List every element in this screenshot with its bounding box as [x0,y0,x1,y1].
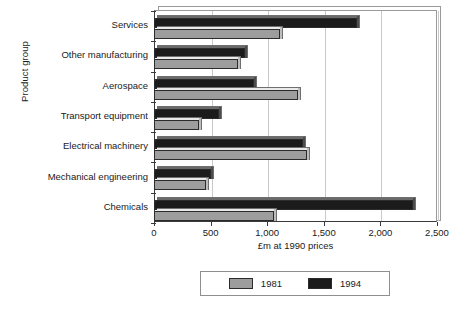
bar-side-face [245,45,248,58]
legend-label-1994: 1994 [340,278,361,289]
bar-1981-aerospace [154,90,298,100]
bar-front-face [154,150,307,160]
bar-side-face [206,177,209,190]
bar-side-face [298,87,301,100]
x-axis-tick-label: 0 [151,227,156,238]
legend-swatch-1994 [308,278,332,289]
bar-side-face [357,15,360,28]
y-axis-tick-label: Electrical machinery [24,140,148,151]
legend-item-1994: 1994 [308,278,361,289]
bar-1981-services [154,29,280,39]
y-axis-tick-label: Chemicals [24,201,148,212]
x-axis-tick-label: 2,000 [369,227,393,238]
legend-swatch-1981 [229,278,253,289]
x-axis-tick [267,222,268,226]
x-axis-tick [211,222,212,226]
bar-side-face [307,147,310,160]
legend-item-1981: 1981 [229,278,282,289]
bars-layer [154,10,437,222]
bar-1981-chemicals [154,211,274,221]
bar-chart: Product group ServicesOther manufacturin… [0,0,470,316]
bar-1981-electrical-machinery [154,150,307,160]
bar-front-face [154,180,206,190]
bar-side-face [413,197,416,210]
bar-front-face [154,120,199,130]
legend-label-1981: 1981 [261,278,282,289]
bar-front-face [154,211,274,221]
x-axis-tick-label: 1,000 [255,227,279,238]
y-axis-tick-label: Services [24,19,148,30]
x-axis-tick-label: 2,500 [425,227,449,238]
bar-front-face [154,29,280,39]
bar-front-face [154,59,238,69]
x-axis-tick-label: 1,500 [312,227,336,238]
bar-side-face [280,26,283,39]
y-axis-tick-labels: ServicesOther manufacturingAerospaceTran… [24,10,148,222]
y-axis-tick-label: Aerospace [24,80,148,91]
x-axis-tick [437,222,438,226]
y-axis-tick-label: Other manufacturing [24,49,148,60]
gridline [438,11,439,221]
bar-1981-transport-equipment [154,120,199,130]
x-axis-tick [154,222,155,226]
bar-side-face [219,106,222,119]
bar-front-face [154,90,298,100]
x-axis-tick [324,222,325,226]
x-axis-tick-label: 500 [203,227,219,238]
y-axis-tick-label: Mechanical engineering [24,171,148,182]
bar-side-face [199,117,202,130]
bar-1981-mechanical-engineering [154,180,206,190]
y-axis-tick-label: Transport equipment [24,110,148,121]
x-axis-tick [380,222,381,226]
bar-side-face [211,166,214,179]
bar-side-face [274,208,277,221]
x-axis-title: £m at 1990 prices [154,240,437,251]
bar-1981-other-manufacturing [154,59,238,69]
chart-legend: 1981 1994 [200,271,390,296]
bar-side-face [238,56,241,69]
